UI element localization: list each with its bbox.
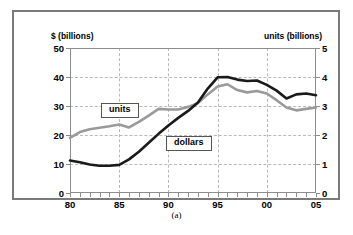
series-layer (70, 48, 316, 193)
x-axis-tick (267, 193, 268, 197)
y-axis-right-tick-label: 0 (322, 188, 327, 199)
figure-frame: $ (billions) units (billions) 0102030405… (12, 10, 340, 200)
x-axis-tick (237, 193, 238, 197)
x-axis-tick (286, 193, 287, 197)
y-axis-right-tick-label: 1 (322, 159, 327, 170)
x-axis-tick (149, 193, 150, 197)
x-axis-tick (119, 193, 120, 197)
x-axis-tick (80, 193, 81, 197)
x-axis-tick-label: 80 (65, 199, 76, 210)
y-axis-right-tick (316, 135, 320, 136)
y-axis-left-tick-label: 0 (59, 188, 64, 199)
x-axis-tick (159, 193, 160, 197)
x-axis-tick-label: 05 (311, 199, 322, 210)
x-axis-tick (316, 193, 317, 197)
y-axis-left-tick-label: 20 (53, 130, 64, 141)
x-axis-tick (198, 193, 199, 197)
x-axis-tick (306, 193, 307, 197)
x-axis-tick (208, 193, 209, 197)
y-axis-left-tick-label: 40 (53, 72, 64, 83)
plot-area: 01020304050012345808590950005 units doll… (70, 48, 316, 193)
right-axis-title: units (billions) (264, 31, 322, 41)
y-axis-right-tick-label: 2 (322, 130, 327, 141)
y-axis-left-tick-label: 50 (53, 43, 64, 54)
x-axis-tick (296, 193, 297, 197)
figure-caption: (a) (0, 210, 353, 220)
x-axis-tick (109, 193, 110, 197)
y-axis-right-tick-label: 5 (322, 43, 327, 54)
x-axis-tick (129, 193, 130, 197)
x-axis-tick-label: 90 (163, 199, 174, 210)
x-axis-tick (188, 193, 189, 197)
y-axis-left-tick-label: 10 (53, 159, 64, 170)
x-axis-tick (257, 193, 258, 197)
x-axis-tick (178, 193, 179, 197)
series-line-dollars (70, 77, 316, 166)
x-axis-tick (277, 193, 278, 197)
x-axis-tick (70, 193, 71, 197)
x-axis-tick (90, 193, 91, 197)
y-axis-left-tick-label: 30 (53, 101, 64, 112)
x-axis-tick-label: 85 (114, 199, 125, 210)
y-axis-right-tick-label: 4 (322, 72, 327, 83)
series-label-dollars: dollars (166, 136, 212, 151)
y-axis-right-tick-label: 3 (322, 101, 327, 112)
series-label-units: units (101, 103, 139, 118)
x-axis-tick (100, 193, 101, 197)
y-axis-right-tick (316, 164, 320, 165)
x-axis-tick (227, 193, 228, 197)
x-axis-tick (218, 193, 219, 197)
x-axis-tick (168, 193, 169, 197)
x-axis-tick-label: 00 (262, 199, 273, 210)
figure-root: $ (billions) units (billions) 0102030405… (0, 0, 353, 235)
left-axis-title: $ (billions) (51, 31, 94, 41)
y-axis-right-tick (316, 77, 320, 78)
x-axis-tick (247, 193, 248, 197)
y-axis-right-tick (316, 48, 320, 49)
x-axis-tick-label: 95 (212, 199, 223, 210)
x-axis-tick (139, 193, 140, 197)
